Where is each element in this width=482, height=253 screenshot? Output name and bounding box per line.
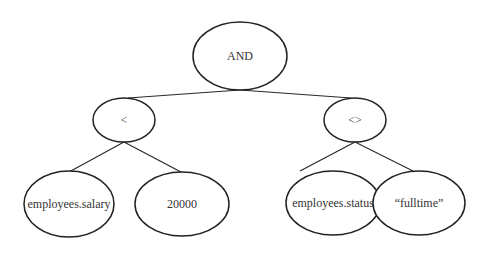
edge-and-lt	[128, 90, 240, 98]
edge-ne-status	[300, 142, 355, 171]
tree-node-ne: <>	[324, 98, 386, 142]
node-label: employees.status	[292, 196, 374, 210]
tree-node-and: AND	[193, 22, 287, 90]
tree-node-salary: employees.salary	[24, 171, 114, 237]
edge-lt-num	[124, 142, 181, 172]
node-label: employees.salary	[28, 197, 111, 211]
nodes: AND<<>employees.salary20000employees.sta…	[24, 22, 465, 237]
node-label: “fulltime”	[395, 196, 444, 210]
tree-node-status: employees.status	[286, 171, 380, 235]
tree-node-fulltime: “fulltime”	[373, 171, 465, 235]
edge-ne-fulltime	[355, 142, 413, 171]
node-label: <	[121, 113, 128, 127]
edge-lt-salary	[69, 142, 124, 172]
tree-node-lt: <	[93, 98, 155, 142]
expression-tree-diagram: AND<<>employees.salary20000employees.sta…	[0, 0, 482, 253]
node-label: 20000	[167, 197, 197, 211]
node-label: <>	[348, 113, 362, 127]
node-label: AND	[227, 49, 253, 63]
tree-node-num: 20000	[135, 172, 229, 236]
edge-and-ne	[240, 90, 351, 98]
